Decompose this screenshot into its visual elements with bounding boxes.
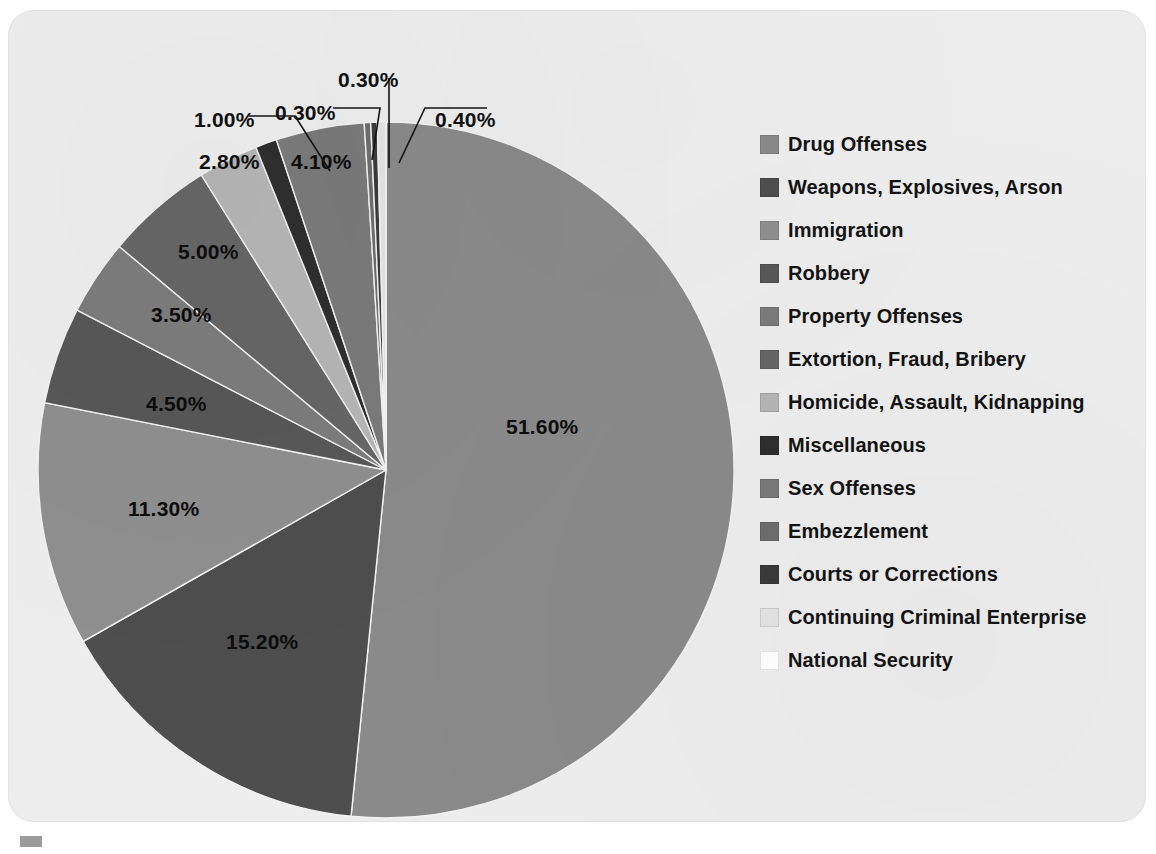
legend-item[interactable]: Continuing Criminal Enterprise: [760, 596, 1150, 639]
legend-color-swatch-icon: [760, 135, 779, 154]
legend-item[interactable]: Robbery: [760, 252, 1150, 295]
legend-color-swatch-icon: [760, 479, 779, 498]
legend-color-swatch-icon: [760, 608, 779, 627]
legend-item-label: Homicide, Assault, Kidnapping: [788, 391, 1085, 414]
legend-item-label: Miscellaneous: [788, 434, 926, 457]
legend-color-swatch-icon: [760, 522, 779, 541]
legend-color-swatch-icon: [760, 565, 779, 584]
slice-percentage-label: 0.40%: [435, 108, 496, 132]
legend-item[interactable]: Embezzlement: [760, 510, 1150, 553]
legend-item-label: Drug Offenses: [788, 133, 927, 156]
legend-item-label: Property Offenses: [788, 305, 963, 328]
pie-slice-group: [38, 122, 734, 818]
chart-figure-frame: 51.60%15.20%11.30%4.50%3.50%5.00%2.80%1.…: [8, 10, 1146, 822]
scanned-page: 51.60%15.20%11.30%4.50%3.50%5.00%2.80%1.…: [0, 0, 1156, 854]
pie-chart: [36, 120, 736, 820]
legend-color-swatch-icon: [760, 178, 779, 197]
legend-item-label: National Security: [788, 649, 953, 672]
legend-item[interactable]: Courts or Corrections: [760, 553, 1150, 596]
legend-color-swatch-icon: [760, 264, 779, 283]
legend-item[interactable]: Homicide, Assault, Kidnapping: [760, 381, 1150, 424]
legend-color-swatch-icon: [760, 651, 779, 670]
legend-color-swatch-icon: [760, 221, 779, 240]
legend-item-label: Sex Offenses: [788, 477, 916, 500]
legend-color-swatch-icon: [760, 307, 779, 326]
legend-color-swatch-icon: [760, 350, 779, 369]
slice-percentage-label: 4.10%: [291, 150, 352, 174]
chart-legend: Drug OffensesWeapons, Explosives, ArsonI…: [760, 123, 1150, 682]
legend-item[interactable]: Property Offenses: [760, 295, 1150, 338]
legend-item-label: Robbery: [788, 262, 870, 285]
slice-percentage-label: 0.30%: [275, 101, 336, 125]
slice-percentage-label: 3.50%: [151, 303, 212, 327]
legend-item[interactable]: National Security: [760, 639, 1150, 682]
legend-color-swatch-icon: [760, 436, 779, 455]
legend-item[interactable]: Extortion, Fraud, Bribery: [760, 338, 1150, 381]
legend-item[interactable]: Sex Offenses: [760, 467, 1150, 510]
legend-item[interactable]: Drug Offenses: [760, 123, 1150, 166]
slice-percentage-label: 5.00%: [178, 240, 239, 264]
legend-item-label: Courts or Corrections: [788, 563, 998, 586]
legend-item-label: Extortion, Fraud, Bribery: [788, 348, 1026, 371]
slice-percentage-label: 0.30%: [338, 68, 399, 92]
slice-percentage-label: 1.00%: [194, 108, 255, 132]
legend-item-label: Immigration: [788, 219, 904, 242]
slice-percentage-label: 2.80%: [199, 150, 260, 174]
pie-chart-svg: [36, 120, 736, 820]
legend-item-label: Weapons, Explosives, Arson: [788, 176, 1063, 199]
legend-item-label: Embezzlement: [788, 520, 928, 543]
legend-item-label: Continuing Criminal Enterprise: [788, 606, 1087, 629]
slice-percentage-label: 4.50%: [146, 392, 207, 416]
legend-item[interactable]: Weapons, Explosives, Arson: [760, 166, 1150, 209]
slice-percentage-label: 51.60%: [506, 415, 578, 439]
legend-item[interactable]: Miscellaneous: [760, 424, 1150, 467]
slice-percentage-label: 11.30%: [128, 497, 199, 521]
slice-percentage-label: 15.20%: [226, 630, 298, 654]
legend-color-swatch-icon: [760, 393, 779, 412]
legend-item[interactable]: Immigration: [760, 209, 1150, 252]
scan-artifact-mark: [20, 836, 42, 847]
pie-slice[interactable]: [351, 122, 734, 818]
